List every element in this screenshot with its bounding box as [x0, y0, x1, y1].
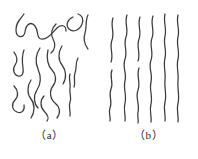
- figure-root: （a） （b）: [0, 0, 198, 159]
- polymer-chain: [164, 14, 165, 121]
- polymer-chain: [124, 15, 127, 121]
- polymer-chain: [74, 58, 78, 87]
- polymer-chain: [111, 18, 113, 62]
- polymer-chain: [34, 48, 40, 108]
- polymer-chain: [150, 16, 153, 122]
- polymer-chain: [109, 70, 112, 121]
- panel-a-chain-drawing: [0, 0, 99, 128]
- panel-b: （b）: [99, 0, 198, 159]
- polymer-chain: [138, 17, 140, 61]
- polymer-chain: [67, 14, 83, 31]
- polymer-chain: [13, 86, 25, 113]
- polymer-chain: [41, 96, 48, 121]
- polymer-chain: [14, 50, 24, 76]
- panel-b-caption: （b）: [99, 128, 198, 142]
- polymer-chain: [177, 15, 178, 122]
- polymer-chain: [69, 74, 70, 116]
- polymer-chain: [47, 50, 59, 118]
- polymer-chain: [16, 14, 66, 39]
- panel-a: （a）: [0, 0, 99, 159]
- polymer-chain: [59, 46, 66, 84]
- polymer-chain: [51, 24, 56, 53]
- panel-a-caption: （a）: [0, 128, 99, 142]
- panel-b-chain-drawing: [99, 0, 198, 128]
- polymer-chain: [28, 80, 34, 118]
- polymer-chain: [84, 15, 88, 49]
- polymer-chain: [137, 68, 139, 123]
